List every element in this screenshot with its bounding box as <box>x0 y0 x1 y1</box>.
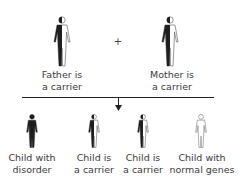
child-affected-figure-icon <box>24 114 40 149</box>
mother-label-line2: a carrier <box>150 81 194 93</box>
arrow-down-icon <box>115 105 122 111</box>
child-label-line2: a carrier <box>74 164 114 176</box>
mother-carrier-figure-icon <box>158 16 182 68</box>
child-label: Child is a carrier <box>74 152 114 176</box>
mother-label: Mother is a carrier <box>150 69 194 93</box>
child-label-line1: Child with <box>170 152 235 164</box>
father-label-line2: a carrier <box>42 81 83 93</box>
child-label-line2: normal genes <box>170 164 235 176</box>
child-carrier-figure-icon <box>86 114 102 149</box>
child-label-line1: Child with <box>8 152 55 164</box>
child-label: Child with normal genes <box>170 152 235 176</box>
father-label-line1: Father is <box>42 69 83 81</box>
child-label: Child is a carrier <box>123 152 163 176</box>
child-label: Child with disorder <box>8 152 55 176</box>
child-label-line2: disorder <box>8 164 55 176</box>
mother-label-line1: Mother is <box>150 69 194 81</box>
child-label-line1: Child is <box>74 152 114 164</box>
child-carrier-figure-icon <box>135 114 151 149</box>
child-label-line2: a carrier <box>123 164 163 176</box>
child-normal-figure-icon <box>193 114 209 149</box>
plus-operator: + <box>114 36 122 47</box>
father-label: Father is a carrier <box>42 69 83 93</box>
father-carrier-figure-icon <box>50 16 74 68</box>
child-label-line1: Child is <box>123 152 163 164</box>
